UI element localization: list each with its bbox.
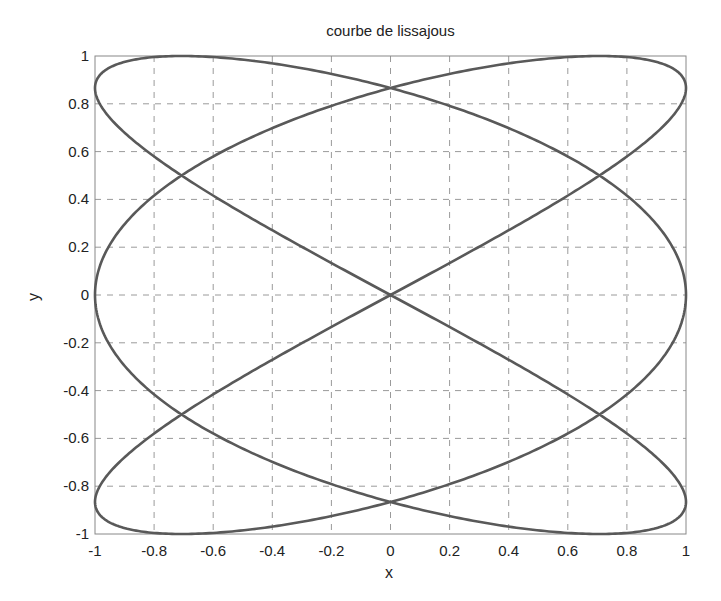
x-tick-label: -0.2 xyxy=(318,542,344,559)
x-tick-label: 0.6 xyxy=(557,542,578,559)
x-tick-label: -0.6 xyxy=(200,542,226,559)
y-axis-label: y xyxy=(25,293,43,301)
y-tick-label: -1 xyxy=(76,525,89,542)
x-axis-label: x xyxy=(385,564,393,582)
x-tick-label: 1 xyxy=(682,542,690,559)
y-tick-label: -0.2 xyxy=(63,334,89,351)
y-tick-labels: -1-0.8-0.6-0.4-0.200.20.40.60.81 xyxy=(63,47,89,542)
plot-area: -1-0.8-0.6-0.4-0.200.20.40.60.81 -1-0.8-… xyxy=(0,0,721,601)
x-tick-label: 0.4 xyxy=(498,542,519,559)
x-tick-label: -0.4 xyxy=(259,542,285,559)
x-tick-label: -1 xyxy=(88,542,101,559)
y-tick-label: 0 xyxy=(81,286,89,303)
y-tick-label: -0.6 xyxy=(63,429,89,446)
y-tick-label: 0.2 xyxy=(68,238,89,255)
y-tick-label: -0.4 xyxy=(63,382,89,399)
x-tick-label: 0.8 xyxy=(616,542,637,559)
x-tick-label: 0 xyxy=(386,542,394,559)
x-tick-label: -0.8 xyxy=(141,542,167,559)
y-tick-label: 0.8 xyxy=(68,95,89,112)
y-tick-label: 1 xyxy=(81,47,89,64)
x-tick-labels: -1-0.8-0.6-0.4-0.200.20.40.60.81 xyxy=(88,542,690,559)
y-tick-label: -0.8 xyxy=(63,477,89,494)
y-tick-label: 0.4 xyxy=(68,190,89,207)
x-tick-label: 0.2 xyxy=(439,542,460,559)
y-tick-label: 0.6 xyxy=(68,143,89,160)
